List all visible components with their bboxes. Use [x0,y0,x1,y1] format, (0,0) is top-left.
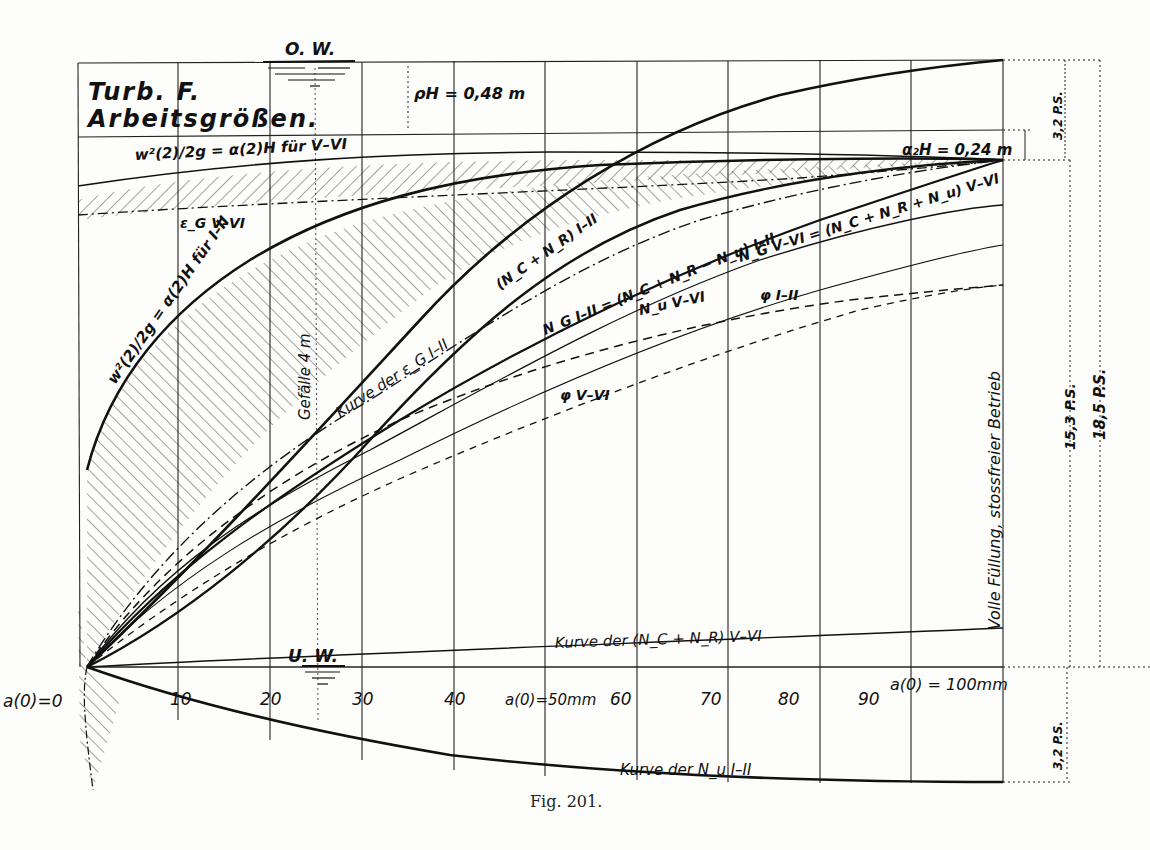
x-tick-0: a(0)=0 [3,691,63,711]
chart-title-line2: Arbeitsgrößen. [86,105,319,133]
gefaelle-label: Gefälle 4 m [296,333,314,420]
x-tick-70: 70 [700,689,722,709]
turbine-work-diagram: Turb. F. Arbeitsgrößen. O. W. U. W. ρH =… [0,0,1150,850]
ps-bottom-label: 3,2 P.S. [1051,721,1065,770]
x-tick-90: 90 [858,689,880,709]
label-phi-v-vi: φ V–VI [560,387,610,403]
uw-label: U. W. [288,646,338,666]
label-kurve-nc-nr-v-vi: Kurve der (N_C + N_R) V–VI [555,627,763,653]
x-tick-60: 60 [610,689,632,709]
figure-caption: Fig. 201. [530,792,602,811]
label-phi-i-ii: φ I–II [760,287,798,303]
volle-fuellung-label: Volle Füllung, stossfreier Betrieb [985,371,1004,630]
x-tick-50: a(0)=50mm [505,691,596,709]
x-tick-10: 10 [170,689,192,709]
x-tick-30: 30 [352,689,374,709]
label-ng-i-ii: N_G I–II = (N_C + N_R − N_u) I–II [540,229,778,338]
x-tick-100-visible: a(0) = 100mm [890,675,1008,694]
x-tick-40: 40 [444,689,466,709]
x-tick-80: 80 [778,689,800,709]
chart-title-line1: Turb. F. [88,78,201,106]
x-tick-20: 20 [260,689,282,709]
ps-top-label: 3,2 P.S. [1051,91,1065,140]
label-kurve-nu-i-ii: Kurve der N_u I–II [620,761,752,780]
ps-15-3-label: 15,3 P.S. [1062,383,1078,450]
ps-18-5-label: 18,5 P.S. [1091,368,1109,440]
ow-label: O. W. [285,39,335,59]
alpha2-h-label: α₂H = 0,24 m [902,141,1012,159]
rho-h-label: ρH = 0,48 m [414,84,525,103]
x-axis-ticks: a(0)=0 10 20 30 40 a(0)=50mm 60 70 80 90… [3,675,1008,711]
